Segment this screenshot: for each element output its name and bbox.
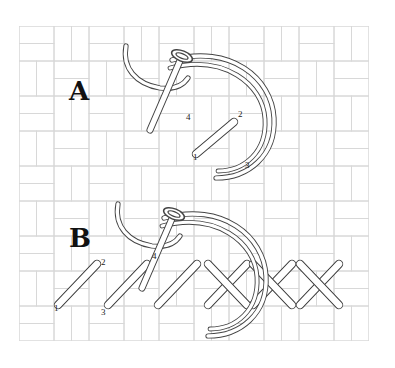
- stitch-diagram: A1234B1234: [0, 0, 395, 368]
- fabric-brick: [19, 254, 54, 272]
- fabric-brick: [299, 61, 317, 96]
- fabric-brick: [107, 61, 125, 96]
- fabric-brick: [142, 166, 160, 201]
- fabric-brick: [317, 131, 335, 166]
- fabric-brick: [89, 44, 124, 62]
- fabric-brick: [72, 26, 90, 61]
- fabric-brick: [54, 149, 89, 167]
- panel-b-point-2: 2: [101, 257, 106, 267]
- panel-b-point-1: 1: [54, 303, 59, 313]
- fabric-brick: [334, 306, 352, 341]
- fabric-brick: [19, 201, 37, 236]
- stitch-a-half-cross-stitch-body: [196, 122, 234, 154]
- panel-letter-a: A: [68, 76, 90, 106]
- fabric-brick: [194, 79, 229, 97]
- fabric-brick: [264, 26, 282, 61]
- stitch-b-0-body: [58, 264, 97, 305]
- fabric-brick: [19, 96, 54, 114]
- fabric-brick: [317, 61, 335, 96]
- fabric-brick: [334, 96, 352, 131]
- fabric-brick: [89, 184, 124, 202]
- fabric-brick: [352, 236, 370, 271]
- fabric-brick: [89, 114, 124, 132]
- fabric-brick: [264, 61, 299, 79]
- diagram-canvas: A1234B1234: [0, 0, 395, 368]
- stitch-b-2: [158, 264, 197, 305]
- fabric-brick: [19, 61, 37, 96]
- fabric-brick: [177, 131, 195, 166]
- fabric-brick: [299, 166, 334, 184]
- fabric-brick: [264, 219, 299, 237]
- fabric-brick: [299, 236, 334, 254]
- fabric-brick: [264, 201, 299, 219]
- fabric-brick: [282, 96, 300, 131]
- needle-assembly-b-needle-shaft-body: [142, 214, 174, 288]
- fabric-brick: [352, 306, 370, 341]
- fabric-brick: [19, 271, 37, 306]
- panel-b-point-4: 4: [152, 251, 157, 261]
- fabric-brick: [229, 131, 247, 166]
- panel-letter-b: B: [69, 223, 91, 253]
- fabric-brick: [19, 306, 54, 324]
- fabric-brick: [194, 166, 212, 201]
- fabric-brick: [19, 324, 54, 342]
- fabric-brick: [299, 324, 334, 342]
- fabric-brick: [299, 44, 334, 62]
- panel-a-artwork: [125, 46, 274, 178]
- needle-assembly-a-needle-shaft-body: [150, 56, 182, 130]
- fabric-brick: [334, 271, 369, 289]
- fabric-brick: [124, 96, 142, 131]
- fabric-brick: [159, 306, 194, 324]
- fabric-brick: [264, 306, 282, 341]
- fabric-brick: [282, 166, 300, 201]
- fabric-brick: [19, 131, 37, 166]
- fabric-brick: [159, 131, 177, 166]
- fabric-brick: [159, 184, 194, 202]
- panel-a-point-4: 4: [186, 112, 191, 122]
- fabric-brick: [72, 166, 90, 201]
- fabric-brick: [89, 236, 124, 254]
- fabric-brick: [19, 166, 54, 184]
- stitch-artwork-layer: [58, 46, 339, 336]
- fabric-brick: [299, 201, 317, 236]
- fabric-brick: [124, 306, 142, 341]
- fabric-brick: [124, 201, 159, 219]
- fabric-brick: [37, 201, 55, 236]
- panel-a-point-3: 3: [245, 160, 250, 170]
- fabric-brick: [89, 131, 107, 166]
- fabric-brick: [334, 166, 352, 201]
- fabric-brick: [19, 44, 54, 62]
- fabric-brick: [299, 184, 334, 202]
- fabric-brick: [37, 131, 55, 166]
- fabric-brick: [159, 166, 194, 184]
- fabric-brick: [19, 184, 54, 202]
- fabric-brick: [159, 324, 194, 342]
- fabric-brick: [142, 26, 160, 61]
- fabric-brick: [299, 26, 334, 44]
- fabric-brick: [334, 219, 369, 237]
- fabric-brick: [229, 184, 264, 202]
- fabric-brick: [19, 26, 54, 44]
- fabric-brick: [247, 201, 265, 236]
- fabric-brick: [107, 131, 125, 166]
- needle-assembly-a: [125, 46, 274, 178]
- fabric-brick: [229, 26, 264, 44]
- fabric-brick: [72, 306, 90, 341]
- fabric-brick: [299, 131, 317, 166]
- fabric-brick: [89, 324, 124, 342]
- fabric-brick: [89, 61, 107, 96]
- fabric-brick: [37, 271, 55, 306]
- fabric-brick: [352, 26, 370, 61]
- fabric-brick: [89, 96, 124, 114]
- fabric-brick: [352, 166, 370, 201]
- fabric-brick: [54, 26, 72, 61]
- fabric-brick: [89, 271, 107, 306]
- fabric-brick: [89, 26, 124, 44]
- fabric-brick: [37, 61, 55, 96]
- fabric-brick: [352, 96, 370, 131]
- fabric-brick: [54, 201, 89, 219]
- fabric-brick: [334, 61, 369, 79]
- stitch-b-2-body: [158, 264, 197, 305]
- panel-a-point-2: 2: [238, 109, 243, 119]
- fabric-brick: [334, 26, 352, 61]
